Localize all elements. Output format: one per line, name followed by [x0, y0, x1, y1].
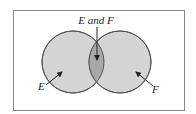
set-e-label: E	[37, 80, 45, 92]
intersection-label: E and F	[77, 14, 114, 26]
venn-diagram: E and F E F	[0, 0, 196, 114]
